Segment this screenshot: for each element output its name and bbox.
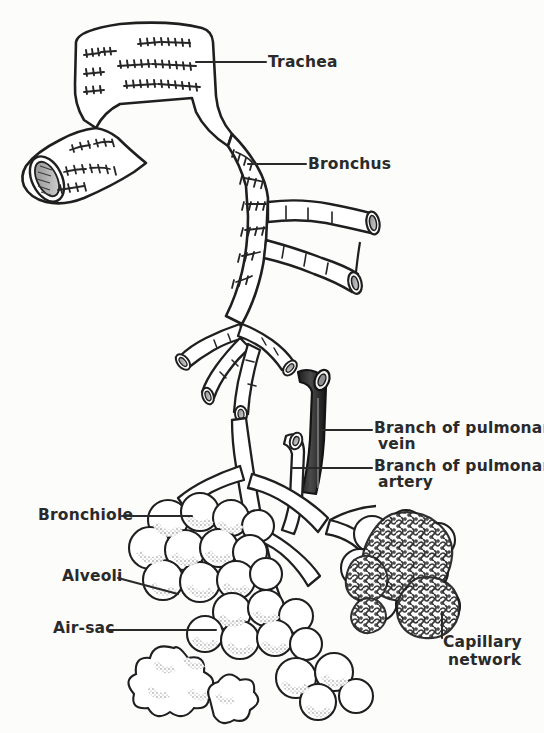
figure-page: Trachea Bronchus Branch of pulmonary vei… xyxy=(0,0,544,733)
label-bronchus: Bronchus xyxy=(308,156,391,172)
air-sac-cluster-lower-right xyxy=(276,653,373,720)
label-bronchiole: Bronchiole xyxy=(38,507,133,523)
mid-bronchi-left-fan xyxy=(173,324,300,423)
right-main-bronchus xyxy=(226,134,268,324)
pulmonary-artery xyxy=(282,431,304,534)
label-air-sac: Air-sac xyxy=(53,620,115,636)
secondary-bronchus-upper-right xyxy=(268,200,381,235)
label-trachea: Trachea xyxy=(268,54,338,70)
left-main-bronchus xyxy=(22,128,146,207)
label-alveoli: Alveoli xyxy=(62,568,123,584)
alveolar-cluster-upper-left xyxy=(129,493,282,602)
secondary-bronchus-lower-right xyxy=(264,240,364,295)
